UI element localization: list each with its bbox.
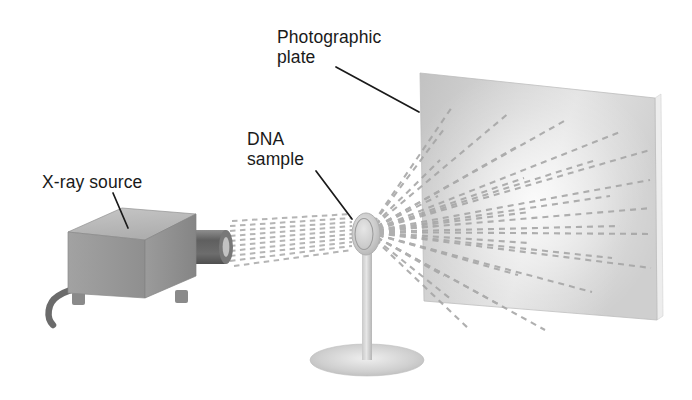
sample-stand (310, 250, 424, 376)
leader-dna-sample (316, 171, 352, 219)
photographic-plate (420, 73, 663, 320)
xray-diffraction-diagram: Photographic plate DNA sample X-ray sour… (0, 0, 692, 400)
label-xray-source: X-ray source (42, 172, 142, 192)
label-dna-sample: DNA sample (247, 129, 304, 169)
xray-source (49, 208, 233, 325)
label-photographic-plate: Photographic plate (277, 27, 381, 67)
dna-sample-disc (352, 213, 380, 255)
leader-photographic-plate (336, 67, 419, 112)
box-front-face (68, 232, 145, 298)
incident-beam (230, 214, 352, 266)
box-foot-right (175, 290, 188, 303)
plate-highlight (420, 73, 657, 320)
tube-aperture-inner (223, 237, 230, 257)
stand-post (362, 250, 372, 360)
